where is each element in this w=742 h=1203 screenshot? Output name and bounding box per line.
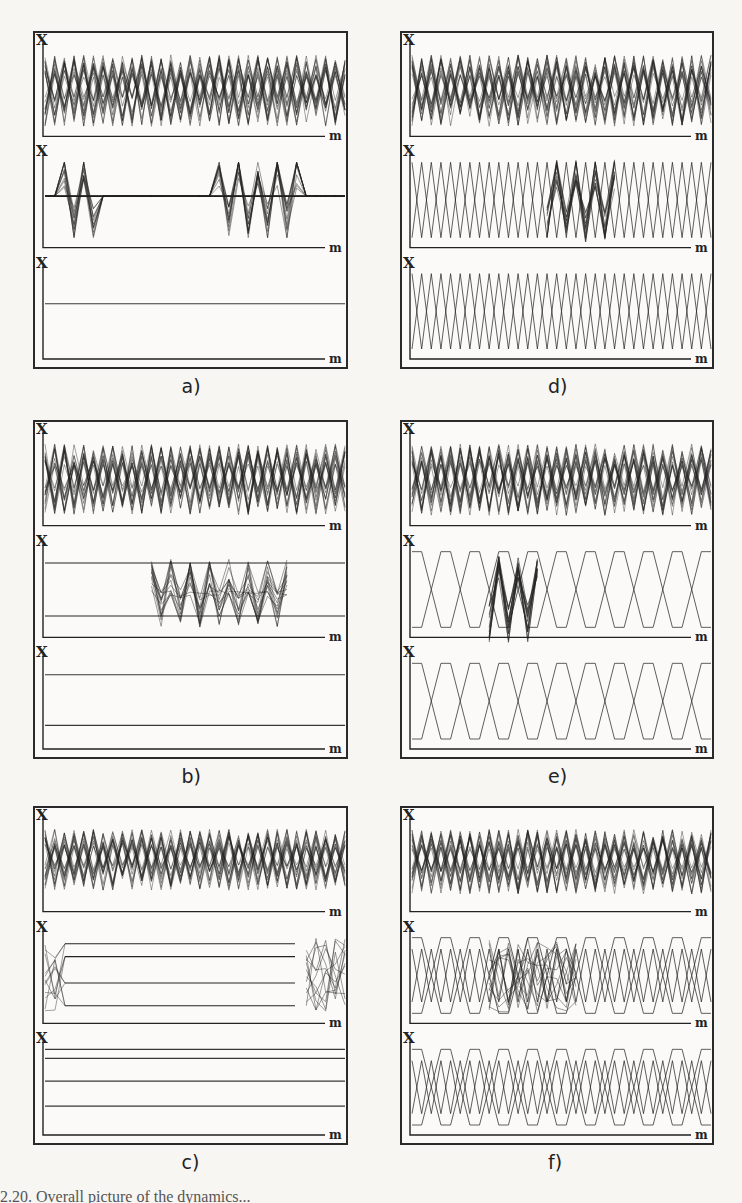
axis-label-m: m (695, 519, 708, 533)
panel-label-c: c) (182, 1151, 200, 1173)
axis-label-x: X (403, 1029, 415, 1047)
axis-label-x: X (36, 142, 48, 160)
panel-b: XmXmXm (33, 420, 348, 759)
axis-label-x: X (36, 33, 48, 49)
axis-label-x: X (403, 422, 415, 438)
panel-plot-e: XmXmXm (402, 422, 712, 757)
axis-label-x: X (36, 1029, 48, 1047)
axis-label-m: m (329, 1016, 342, 1030)
axis-label-m: m (329, 129, 342, 143)
axis-label-x: X (403, 643, 415, 661)
panel-plot-d: XmXmXm (402, 33, 712, 367)
axis-label-x: X (36, 254, 48, 272)
axis-label-m: m (695, 241, 708, 255)
axis-label-x: X (403, 918, 415, 936)
axis-label-m: m (329, 1128, 342, 1142)
panel-d: XmXmXm (400, 31, 714, 369)
axis-label-x: X (36, 918, 48, 936)
axis-label-m: m (695, 742, 708, 756)
axis-label-x: X (403, 254, 415, 272)
axis-label-x: X (403, 142, 415, 160)
axis-label-m: m (329, 742, 342, 756)
panel-c: XmXmXm (33, 806, 348, 1145)
axis-label-m: m (329, 905, 342, 919)
panel-a: XmXmXm (33, 31, 348, 369)
panel-label-f: f) (548, 1151, 562, 1173)
panel-label-b: b) (182, 765, 201, 787)
axis-label-m: m (695, 1128, 708, 1142)
axis-label-m: m (695, 630, 708, 644)
axis-label-x: X (36, 643, 48, 661)
axis-label-m: m (329, 630, 342, 644)
panel-plot-f: XmXmXm (402, 808, 712, 1143)
axis-label-x: X (36, 532, 48, 550)
panel-label-e: e) (548, 765, 567, 787)
axis-label-m: m (329, 241, 342, 255)
axis-label-m: m (695, 1016, 708, 1030)
axis-label-x: X (36, 808, 48, 824)
axis-label-x: X (403, 33, 415, 49)
panel-label-a: a) (182, 375, 201, 397)
axis-label-x: X (403, 808, 415, 824)
axis-label-m: m (695, 905, 708, 919)
panel-label-d: d) (548, 375, 567, 397)
panel-plot-a: XmXmXm (35, 33, 346, 367)
panel-e: XmXmXm (400, 420, 714, 759)
axis-label-m: m (695, 129, 708, 143)
axis-label-x: X (36, 422, 48, 438)
axis-label-m: m (695, 352, 708, 366)
panel-plot-c: XmXmXm (35, 808, 346, 1143)
axis-label-m: m (329, 519, 342, 533)
axis-label-x: X (403, 532, 415, 550)
panel-f: XmXmXm (400, 806, 714, 1145)
figure-caption-partial: 2.20. Overall picture of the dynamics... (0, 1188, 742, 1203)
panel-plot-b: XmXmXm (35, 422, 346, 757)
axis-label-m: m (329, 352, 342, 366)
